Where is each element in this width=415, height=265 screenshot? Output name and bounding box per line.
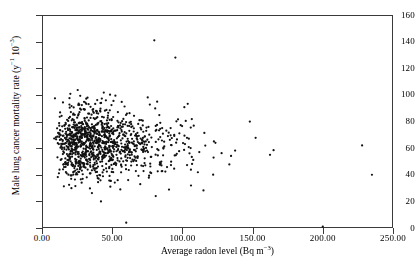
y-tick-label: 100 (381, 90, 415, 99)
x-axis-title: Average radon level (Bq m−3) (42, 246, 393, 257)
y-tick-label: 120 (381, 64, 415, 73)
y-tick-label: 40 (381, 170, 415, 179)
scatter-figure: 020406080100120140160 0.0050.00100.00150… (0, 0, 415, 265)
y-tick-mark (36, 42, 42, 43)
y-tick-mark (36, 95, 42, 96)
x-tick-mark (112, 228, 113, 234)
x-tick-label: 50.00 (85, 234, 139, 243)
x-tick-label: 200.00 (296, 234, 350, 243)
x-tick-mark (393, 228, 394, 234)
x-tick-mark (323, 228, 324, 234)
y-tick-label: 80 (381, 117, 415, 126)
y-axis-title: Male lung cancer mortality rate (y−1 10−… (11, 8, 22, 224)
x-tick-mark (253, 228, 254, 234)
y-tick-label: 140 (381, 37, 415, 46)
y-tick-mark (36, 201, 42, 202)
y-tick-mark (36, 15, 42, 16)
x-tick-label: 150.00 (226, 234, 280, 243)
scatter-points-canvas (42, 15, 393, 228)
x-tick-label: 250.00 (366, 234, 415, 243)
x-tick-label: 0.00 (15, 234, 69, 243)
y-tick-label: 160 (381, 11, 415, 20)
y-tick-mark (36, 175, 42, 176)
y-tick-label: 60 (381, 144, 415, 153)
y-tick-label: 20 (381, 197, 415, 206)
x-tick-mark (182, 228, 183, 234)
y-tick-mark (36, 68, 42, 69)
y-tick-label: 0 (381, 224, 415, 233)
x-tick-mark (42, 228, 43, 234)
y-tick-mark (36, 148, 42, 149)
y-tick-mark (36, 122, 42, 123)
x-tick-label: 100.00 (155, 234, 209, 243)
